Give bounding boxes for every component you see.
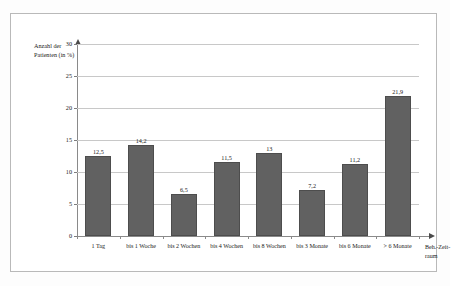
bar: 7,2 [299, 190, 325, 236]
plot-area: 051015202530 12,514,26,511,5137,211,221,… [77, 44, 419, 236]
bar-value-label: 21,9 [392, 89, 403, 95]
bar-value-label: 11,5 [221, 155, 232, 161]
y-tick-label: 15 [66, 137, 72, 143]
x-tick-label: bis 8 Wochen [253, 243, 286, 250]
bar: 13 [256, 153, 282, 236]
x-tick-label: bis 6 Monate [339, 243, 371, 250]
y-tick-mark [74, 172, 77, 173]
x-tick-mark [334, 236, 335, 239]
y-tick-label: 5 [69, 201, 72, 207]
x-axis-title: Beh.-Zeit- raum [425, 243, 455, 261]
bar-value-label: 13 [266, 146, 272, 152]
y-axis-title-line-2: Patienten (in %) [34, 50, 80, 59]
y-tick-mark [74, 76, 77, 77]
x-tick-mark [419, 236, 420, 239]
bar: 11,5 [214, 162, 240, 236]
x-tick-mark [205, 236, 206, 239]
x-tick-label: bis 4 Wochen [210, 243, 243, 250]
x-tick-mark [163, 236, 164, 239]
y-tick-mark [74, 108, 77, 109]
x-tick-label: 1 Tag [92, 243, 106, 250]
x-tick-mark [77, 236, 78, 239]
bar: 11,2 [342, 164, 368, 236]
y-tick-mark [74, 44, 77, 45]
x-axis-title-line-1: Beh.-Zeit- [425, 243, 455, 252]
bar: 12,5 [85, 156, 111, 236]
x-tick-label: bis 2 Wochen [167, 243, 200, 250]
gridline [77, 44, 419, 45]
y-tick-label: 25 [66, 73, 72, 79]
x-axis-title-line-2: raum [425, 252, 455, 261]
gridline [77, 140, 419, 141]
bar: 14,2 [128, 145, 154, 236]
x-tick-mark [376, 236, 377, 239]
gridline [77, 76, 419, 77]
bar-value-label: 11,2 [350, 157, 361, 163]
bar-value-label: 12,5 [93, 149, 104, 155]
gridline [77, 108, 419, 109]
bar-value-label: 6,5 [180, 187, 188, 193]
y-tick-label: 20 [66, 105, 72, 111]
y-tick-label: 30 [66, 41, 72, 47]
y-tick-mark [74, 140, 77, 141]
y-tick-mark [74, 204, 77, 205]
x-tick-label: bis 1 Woche [126, 243, 156, 250]
x-tick-mark [248, 236, 249, 239]
x-tick-mark [120, 236, 121, 239]
y-axis-title-line-1: Anzahl der [34, 41, 80, 50]
bar-value-label: 7,2 [308, 183, 316, 189]
x-tick-label: > 6 Monate [384, 243, 412, 250]
bar-value-label: 14,2 [136, 138, 147, 144]
x-axis-arrow-icon [429, 233, 435, 239]
bar: 21,9 [385, 96, 411, 236]
y-tick-label: 10 [66, 169, 72, 175]
bar: 6,5 [171, 194, 197, 236]
chart-frame: Anzahl der Patienten (in %) Beh.-Zeit- r… [10, 13, 437, 272]
x-tick-mark [291, 236, 292, 239]
y-tick-label: 0 [69, 233, 72, 239]
x-tick-label: bis 3 Monate [296, 243, 328, 250]
